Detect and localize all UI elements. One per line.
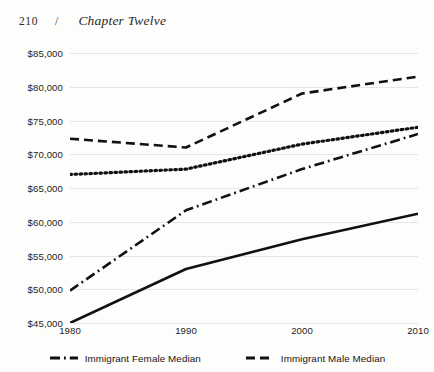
- page-folio: 210: [19, 15, 38, 27]
- book-page: 210 / Chapter Twelve $45,000$50,000$55,0…: [0, 0, 434, 372]
- y-axis-tick-label: $65,000: [28, 183, 63, 194]
- x-axis-tick-label: 2010: [407, 325, 429, 336]
- legend-line-swatch: [245, 354, 275, 362]
- gridline: [70, 323, 418, 324]
- running-head-separator: /: [55, 14, 58, 29]
- y-axis-tick-label: $50,000: [28, 284, 63, 295]
- running-head: 210 / Chapter Twelve: [19, 13, 166, 29]
- y-axis-tick-label: $80,000: [28, 81, 63, 92]
- series-line: [70, 77, 418, 148]
- y-axis-tick-label: $85,000: [28, 48, 63, 59]
- chart-legend: Immigrant Female MedianImmigrant Male Me…: [0, 347, 434, 369]
- series-line: [70, 214, 418, 323]
- legend-item: Immigrant Female Median: [49, 353, 201, 364]
- plot-area: $45,000$50,000$55,000$60,000$65,000$70,0…: [70, 53, 418, 323]
- y-axis-tick-label: $60,000: [28, 216, 63, 227]
- y-axis-tick-label: $45,000: [28, 318, 63, 329]
- legend-line-swatch: [49, 354, 79, 362]
- y-axis-tick-label: $70,000: [28, 149, 63, 160]
- x-axis-tick-label: 2000: [291, 325, 313, 336]
- x-axis-tick-label: 1990: [175, 325, 197, 336]
- series-lines: [70, 53, 418, 323]
- legend-label: Immigrant Male Median: [281, 353, 385, 364]
- chapter-title: Chapter Twelve: [78, 13, 166, 29]
- legend-item: Immigrant Male Median: [245, 353, 385, 364]
- y-axis-tick-label: $55,000: [28, 250, 63, 261]
- legend-label: Immigrant Female Median: [85, 353, 201, 364]
- series-svg: [70, 53, 418, 323]
- series-line: [70, 127, 418, 174]
- y-axis-tick-label: $75,000: [28, 115, 63, 126]
- line-chart: $45,000$50,000$55,000$60,000$65,000$70,0…: [0, 40, 434, 335]
- x-axis-tick-label: 1980: [59, 325, 81, 336]
